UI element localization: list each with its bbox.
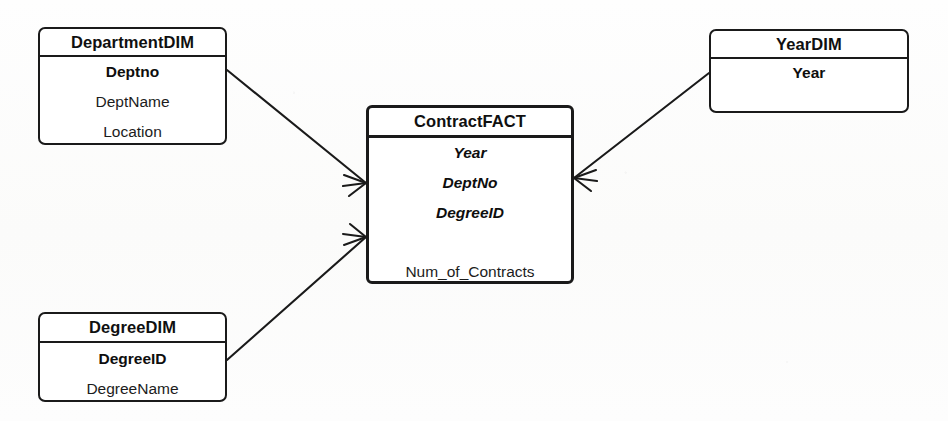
- attribute-row[interactable]: DegreeID: [40, 343, 225, 374]
- entity-attribute-list: DegreeID DegreeName: [40, 343, 225, 404]
- attribute-row[interactable]: Year: [369, 138, 571, 168]
- attribute-row[interactable]: Location: [40, 117, 225, 147]
- attribute-row[interactable]: DeptName: [40, 87, 225, 117]
- entity-contract-fact[interactable]: ContractFACT Year DeptNo DegreeID Num_of…: [366, 105, 574, 284]
- relationship-degree-to-contract: [227, 224, 366, 360]
- attribute-spacer: [711, 87, 907, 115]
- er-diagram-canvas: DepartmentDIM Deptno DeptName Location C…: [0, 0, 948, 421]
- relationship-line: [227, 70, 366, 183]
- crow-foot-icon: [574, 170, 597, 191]
- entity-department-dim[interactable]: DepartmentDIM Deptno DeptName Location: [38, 27, 227, 145]
- attribute-row[interactable]: Num_of_Contracts: [369, 257, 571, 287]
- relationship-year-to-contract: [574, 73, 709, 191]
- relationship-department-to-contract: [227, 70, 366, 196]
- entity-attribute-list: Year: [711, 59, 907, 115]
- attribute-row[interactable]: DeptNo: [369, 168, 571, 198]
- attribute-row[interactable]: DegreeName: [40, 374, 225, 405]
- entity-attribute-list: Deptno DeptName Location: [40, 57, 225, 147]
- entity-title: ContractFACT: [369, 108, 571, 138]
- entity-degree-dim[interactable]: DegreeDIM DegreeID DegreeName: [38, 312, 227, 402]
- entity-title: DepartmentDIM: [40, 29, 225, 57]
- relationship-line: [227, 237, 366, 360]
- attribute-row[interactable]: Deptno: [40, 57, 225, 87]
- entity-title: YearDIM: [711, 31, 907, 59]
- entity-attribute-list: Year DeptNo DegreeID Num_of_Contracts: [369, 138, 571, 287]
- crow-foot-icon: [343, 224, 366, 245]
- attribute-row[interactable]: DegreeID: [369, 198, 571, 228]
- entity-title: DegreeDIM: [40, 314, 225, 343]
- relationship-line: [574, 73, 709, 178]
- crow-foot-icon: [343, 175, 366, 196]
- attribute-row[interactable]: Year: [711, 59, 907, 87]
- entity-year-dim[interactable]: YearDIM Year: [709, 29, 909, 113]
- attribute-spacer: [369, 227, 571, 257]
